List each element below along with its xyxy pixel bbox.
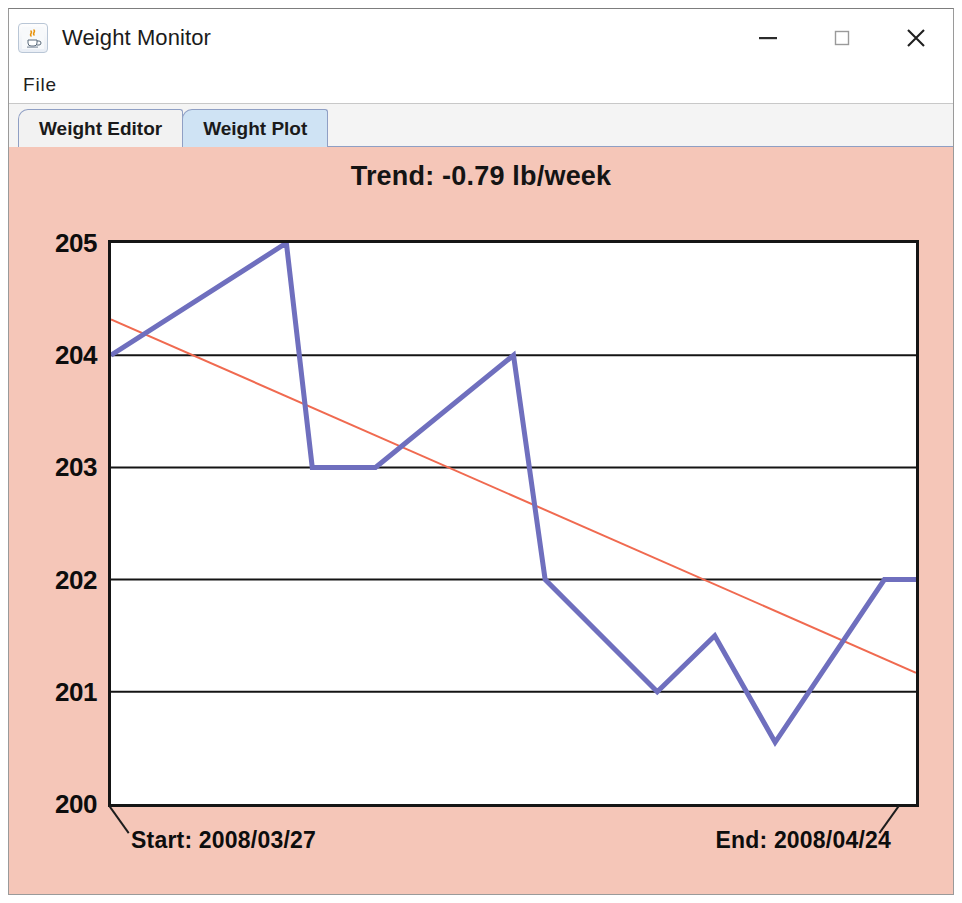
window-title: Weight Monitor: [62, 25, 211, 51]
y-axis-tick-labels: 200201202203204205: [9, 240, 97, 807]
window-controls: [731, 9, 953, 67]
chart-title: Trend: -0.79 lb/week: [9, 161, 953, 192]
close-button[interactable]: [879, 9, 953, 67]
tab-weight-editor[interactable]: Weight Editor: [18, 109, 183, 147]
x-axis-start-label: Start: 2008/03/27: [131, 827, 316, 854]
tab-weight-plot[interactable]: Weight Plot: [182, 109, 328, 147]
java-coffee-cup-icon: [18, 23, 48, 53]
menu-item-file[interactable]: File: [19, 72, 65, 98]
weight-plot-panel: Trend: -0.79 lb/week 200201202203204205 …: [9, 147, 953, 895]
y-tick-label: 200: [55, 789, 97, 820]
maximize-icon: [831, 27, 853, 49]
plot-area: [108, 240, 919, 807]
y-tick-label: 205: [55, 228, 97, 259]
y-tick-label: 201: [55, 676, 97, 707]
y-tick-label: 202: [55, 564, 97, 595]
series-line-weight: [111, 243, 916, 742]
tab-strip: Weight Editor Weight Plot: [9, 104, 953, 147]
close-icon: [901, 23, 931, 53]
title-bar: Weight Monitor: [9, 9, 953, 67]
x-axis-end-label: End: 2008/04/24: [715, 827, 891, 854]
minimize-button[interactable]: [731, 9, 805, 67]
app-window: Weight Monitor File Weight Editor: [8, 8, 954, 895]
maximize-button[interactable]: [805, 9, 879, 67]
y-tick-label: 204: [55, 340, 97, 371]
plot-canvas: [111, 243, 916, 804]
minimize-icon: [755, 30, 781, 46]
y-tick-label: 203: [55, 452, 97, 483]
menu-bar: File: [9, 67, 953, 104]
